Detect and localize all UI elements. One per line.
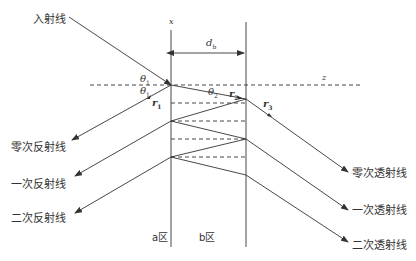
- region-b-label: b区: [199, 229, 215, 244]
- incident-ray: [69, 17, 171, 85]
- transmitted-ray-1-label: 一次透射线: [352, 201, 407, 217]
- theta1-lower: θ1: [140, 85, 150, 98]
- reflected-ray-2-label: 二次反射线: [11, 209, 66, 225]
- transmitted-ray-1: [246, 139, 348, 210]
- reflected-ray-1: [75, 121, 171, 176]
- z-axis-label: z: [322, 73, 326, 82]
- reflected-ray-0: [72, 85, 171, 140]
- r1-vector-label: r1: [152, 97, 161, 110]
- reflected-ray-1-label: 一次反射线: [11, 175, 66, 191]
- transmitted-ray-0-label: 零次透射线: [352, 164, 407, 180]
- reflected-ray-0-label: 零次反射线: [11, 138, 66, 154]
- r3-vector-label: r3: [263, 98, 272, 111]
- theta2: θ2: [208, 86, 218, 99]
- x-axis-label: x: [169, 17, 174, 26]
- incident-ray-label: 入射线: [33, 10, 66, 26]
- transmitted-ray-0: [246, 99, 348, 172]
- region-a-label: a区: [152, 229, 168, 244]
- r2-vector-label: r2: [229, 88, 238, 101]
- transmitted-ray-2-label: 二次透射线: [352, 236, 407, 252]
- transmitted-ray-2: [246, 175, 348, 242]
- reflected-ray-2: [75, 157, 171, 213]
- r3-arrow-icon: [267, 113, 272, 117]
- thickness-symbol: db: [206, 37, 216, 50]
